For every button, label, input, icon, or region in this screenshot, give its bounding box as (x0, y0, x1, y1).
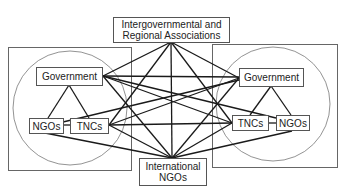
right-government-node: Government (239, 68, 304, 87)
right-ngos-node: NGOs (276, 115, 310, 131)
igo-label-line1: Intergovernmental and (121, 19, 221, 30)
ingo-label-line1: International (145, 161, 200, 172)
connection-lines (45, 42, 292, 158)
left-government-label: Government (42, 71, 97, 82)
right-frame (213, 45, 338, 168)
igo-label-line2: Regional Associations (123, 30, 221, 41)
left-tncs-label: TNCs (77, 121, 103, 132)
left-government-node: Government (36, 67, 103, 86)
left-ngos-label: NGOs (33, 121, 61, 132)
left-frame (9, 48, 132, 171)
left-ngos-node: NGOs (29, 118, 64, 134)
right-tncs-node: TNCs (232, 115, 269, 131)
right-government-label: Government (244, 72, 299, 83)
right-tncs-label: TNCs (238, 118, 264, 129)
right-ngos-label: NGOs (279, 118, 307, 129)
international-ngos-node: International NGOs (139, 158, 207, 186)
ingo-label-line2: NGOs (159, 172, 187, 183)
intergovernmental-associations-node: Intergovernmental and Regional Associati… (113, 17, 230, 43)
left-tncs-node: TNCs (70, 118, 109, 134)
